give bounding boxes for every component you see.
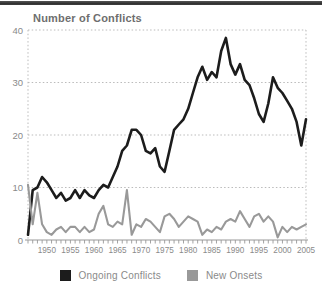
y-tick-label: 40 [12,25,23,36]
x-tick-label: 1960 [85,246,104,255]
ongoing-conflicts-line [28,38,306,235]
chart-legend: Ongoing Conflicts New Onsets [0,270,322,281]
x-tick-label: 1970 [132,246,151,255]
x-tick-label: 1990 [226,246,245,255]
x-tick-label: 1980 [179,246,198,255]
conflict-trends-chart-screen: Number of Conflicts 01020304019501955196… [0,0,322,297]
x-tick-label: 1955 [61,246,80,255]
x-tick-label: 2005 [297,246,316,255]
line-chart-plot: 0102030401950195519601965197019751980198… [0,0,322,264]
x-tick-label: 1950 [38,246,57,255]
gridlines: 010203040 [12,25,306,246]
x-tick-label: 1975 [156,246,175,255]
new-onsets-swatch [187,270,198,281]
ongoing-conflicts-swatch [60,270,71,281]
ongoing-conflicts-label: Ongoing Conflicts [79,270,161,281]
x-tick-label: 1985 [203,246,222,255]
new-onsets-line [28,185,306,238]
y-tick-label: 30 [12,77,23,88]
legend-item-ongoing-conflicts: Ongoing Conflicts [60,270,161,281]
x-axis: 1950195519601965197019751980198519901995… [25,240,316,255]
x-tick-label: 1965 [108,246,127,255]
new-onsets-label: New Onsets [206,270,262,281]
legend-item-new-onsets: New Onsets [187,270,262,281]
x-tick-label: 2000 [273,246,292,255]
y-tick-label: 20 [12,130,23,141]
y-tick-label: 0 [18,235,23,246]
y-tick-label: 10 [12,182,23,193]
x-tick-label: 1995 [250,246,269,255]
